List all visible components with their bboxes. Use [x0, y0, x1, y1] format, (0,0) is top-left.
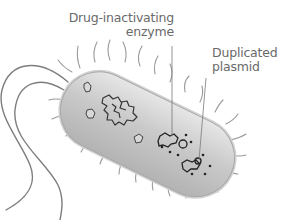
- cell-body: [47, 59, 247, 210]
- bacterium-illustration: [0, 0, 289, 220]
- flagella: [1, 66, 68, 220]
